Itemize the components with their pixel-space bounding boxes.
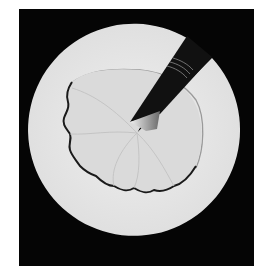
photograph [0,0,265,269]
photo-canvas [0,0,265,269]
